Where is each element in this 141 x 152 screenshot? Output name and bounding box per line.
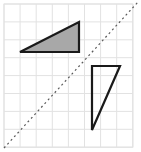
geometry-figure-svg: [0, 0, 141, 152]
mirror-line-y-equals-x: [4, 2, 138, 148]
grid-layer: [4, 4, 133, 147]
figure-canvas: [0, 0, 141, 152]
mirror-line-layer: [4, 2, 138, 148]
shaded-triangle: [20, 22, 79, 52]
